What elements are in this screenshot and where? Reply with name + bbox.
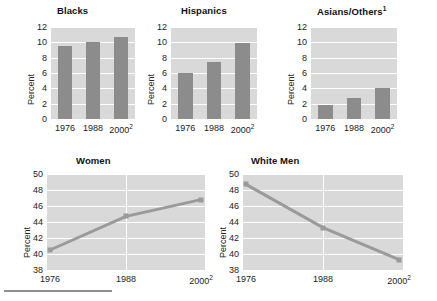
x-tick-label: 20002 (231, 123, 255, 135)
bar (114, 37, 129, 119)
grid-line (171, 58, 257, 59)
bar (178, 73, 193, 119)
grid-line (243, 174, 403, 175)
chart-panel-2: HispanicsPercent0246810121976198820002 (0, 0, 437, 301)
x-tick-label: 1988 (204, 123, 224, 133)
grid-line (51, 27, 135, 28)
grid-line (311, 42, 397, 43)
bar (235, 43, 250, 119)
y-tick-label: 38 (33, 266, 43, 275)
grid-line (171, 42, 257, 43)
chart-panel-4: WomenPercent384042444648501976198820002 (0, 0, 437, 301)
y-tick-label: 46 (33, 202, 43, 211)
x-tick-label: 1988 (83, 123, 103, 133)
plot-area (171, 27, 257, 119)
x-tick-label: 1976 (236, 274, 256, 284)
chart-title: White Men (251, 155, 299, 166)
y-tick-label: 8 (162, 53, 167, 62)
y-tick-label: 6 (302, 69, 307, 78)
bar (375, 88, 390, 119)
plot-area (51, 27, 135, 119)
y-axis-label: Percent (286, 74, 296, 105)
bar (318, 105, 333, 119)
y-tick-label: 38 (229, 266, 239, 275)
bar (347, 98, 362, 119)
data-point-marker (244, 182, 249, 187)
chart-title: Hispanics (181, 5, 227, 16)
grid-line (47, 206, 205, 207)
y-tick-label: 48 (229, 186, 239, 195)
data-point-marker (397, 257, 402, 262)
y-tick-label: 0 (162, 115, 167, 124)
grid-line (171, 27, 257, 28)
grid-line (243, 222, 403, 223)
y-tick-label: 48 (33, 186, 43, 195)
y-tick-label: 2 (162, 99, 167, 108)
grid-line (51, 104, 135, 105)
y-tick-label: 2 (302, 99, 307, 108)
grid-line (51, 58, 135, 59)
x-tick-label: 20002 (387, 274, 411, 286)
bar (86, 42, 101, 119)
y-tick-label: 46 (229, 202, 239, 211)
x-tick-label: 1988 (313, 274, 333, 284)
chart-panel-5: White MenPercent384042444648501976198820… (0, 0, 437, 301)
y-tick-label: 50 (229, 170, 239, 179)
grid-line (243, 190, 403, 191)
y-tick-label: 44 (33, 218, 43, 227)
y-axis-label: Percent (218, 227, 228, 258)
data-point-marker (321, 225, 326, 230)
grid-line (243, 238, 403, 239)
y-tick-label: 4 (42, 84, 47, 93)
plot-area (311, 27, 397, 119)
x-tick-label: 1976 (55, 123, 75, 133)
x-tick-label: 1976 (40, 274, 60, 284)
grid-line (311, 58, 397, 59)
plot-area (243, 174, 403, 270)
y-tick-label: 50 (33, 170, 43, 179)
x-tick-label: 1988 (344, 123, 364, 133)
y-tick-label: 40 (33, 250, 43, 259)
data-point-marker (48, 248, 53, 253)
y-tick-label: 42 (33, 234, 43, 243)
grid-line (51, 73, 135, 74)
x-tick-label: 1976 (175, 123, 195, 133)
y-tick-label: 10 (37, 38, 47, 47)
chart-title: Women (76, 155, 111, 166)
data-point-marker (124, 214, 129, 219)
y-tick-label: 0 (302, 115, 307, 124)
plot-area (47, 174, 205, 270)
y-axis-label: Percent (22, 227, 32, 258)
grid-line (51, 42, 135, 43)
x-tick-label: 1976 (315, 123, 335, 133)
y-axis-label: Percent (146, 74, 156, 105)
y-tick-label: 40 (229, 250, 239, 259)
y-tick-label: 44 (229, 218, 239, 227)
data-point-marker (199, 197, 204, 202)
grid-line (47, 222, 205, 223)
grid-line (311, 104, 397, 105)
grid-line (51, 88, 135, 89)
chart-title: Asians/Others1 (317, 5, 386, 17)
grid-line (47, 190, 205, 191)
y-tick-label: 12 (37, 23, 47, 32)
grid-line-vertical (323, 174, 324, 270)
y-tick-label: 10 (157, 38, 167, 47)
grid-line (47, 174, 205, 175)
footer-rule (4, 290, 112, 292)
grid-line (311, 88, 397, 89)
y-tick-label: 6 (42, 69, 47, 78)
grid-line (47, 238, 205, 239)
bar (207, 62, 222, 120)
grid-line (311, 73, 397, 74)
y-tick-label: 10 (297, 38, 307, 47)
x-tick-label: 20002 (371, 123, 395, 135)
chart-panel-3: Asians/Others1Percent0246810121976198820… (0, 0, 437, 301)
y-tick-label: 12 (157, 23, 167, 32)
bar (58, 46, 73, 119)
line-series (243, 174, 403, 270)
y-tick-label: 0 (42, 115, 47, 124)
x-tick-label: 20002 (189, 274, 213, 286)
y-tick-label: 4 (302, 84, 307, 93)
y-tick-label: 8 (302, 53, 307, 62)
